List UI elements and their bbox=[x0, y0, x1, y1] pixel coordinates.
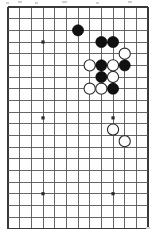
white-stone[interactable] bbox=[96, 83, 107, 94]
black-stone[interactable] bbox=[96, 60, 107, 71]
black-stone[interactable] bbox=[119, 60, 130, 71]
black-stone[interactable] bbox=[107, 83, 118, 94]
star-point bbox=[111, 192, 114, 195]
white-stone[interactable] bbox=[107, 60, 118, 71]
white-stone[interactable] bbox=[84, 60, 95, 71]
scan-speck bbox=[146, 227, 150, 229]
go-board-figure bbox=[0, 0, 155, 233]
board-grid bbox=[8, 7, 148, 229]
white-stone[interactable] bbox=[119, 136, 130, 147]
black-stone[interactable] bbox=[72, 25, 83, 36]
white-stone[interactable] bbox=[119, 48, 130, 59]
white-stone[interactable] bbox=[107, 71, 118, 82]
star-point bbox=[41, 192, 44, 195]
scan-speck bbox=[35, 2, 38, 4]
go-board[interactable] bbox=[0, 0, 155, 233]
scan-speck bbox=[62, 1, 67, 3]
black-stone[interactable] bbox=[96, 36, 107, 47]
star-point bbox=[111, 116, 114, 119]
white-stone[interactable] bbox=[107, 124, 118, 135]
black-stone[interactable] bbox=[96, 71, 107, 82]
white-stone[interactable] bbox=[84, 83, 95, 94]
scan-speck bbox=[18, 1, 22, 3]
black-stone[interactable] bbox=[107, 36, 118, 47]
scan-speck bbox=[128, 1, 132, 3]
scan-speck bbox=[96, 2, 99, 4]
scan-speck bbox=[6, 2, 9, 4]
star-point bbox=[41, 40, 44, 43]
star-point bbox=[41, 116, 44, 119]
